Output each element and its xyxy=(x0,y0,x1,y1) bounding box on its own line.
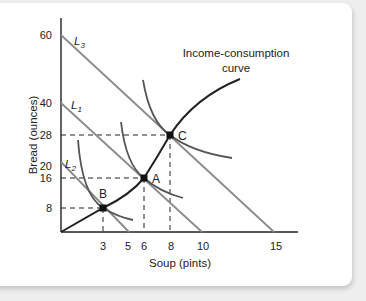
svg-text:16: 16 xyxy=(40,172,52,184)
point-c xyxy=(167,132,174,139)
x-axis-label: Soup (pints) xyxy=(149,257,211,269)
indifference-curve-c xyxy=(143,80,232,158)
svg-text:40: 40 xyxy=(40,97,52,109)
svg-text:6: 6 xyxy=(141,240,147,252)
x-tick-labels: 3 5 6 8 10 15 xyxy=(100,240,282,252)
chart: B A C L3 L1 L2 Income-consumption curve … xyxy=(0,0,366,301)
y-tick-labels: 60 40 28 20 16 8 xyxy=(40,29,52,214)
icc-label-line1: Income-consumption xyxy=(183,47,290,59)
svg-text:8: 8 xyxy=(46,202,52,214)
point-label-a: A xyxy=(152,172,160,186)
svg-text:15: 15 xyxy=(270,240,282,252)
svg-text:5: 5 xyxy=(125,240,131,252)
svg-text:3: 3 xyxy=(100,240,106,252)
svg-text:8: 8 xyxy=(168,240,174,252)
point-b xyxy=(100,205,107,212)
svg-text:28: 28 xyxy=(40,129,52,141)
line-label-l1: L1 xyxy=(71,99,82,114)
icc-label-line2: curve xyxy=(222,62,250,74)
svg-text:20: 20 xyxy=(40,160,52,172)
y-axis-label: Bread (ounces) xyxy=(27,96,39,175)
point-label-b: B xyxy=(99,187,107,201)
point-a xyxy=(141,175,148,182)
svg-text:60: 60 xyxy=(40,29,52,41)
svg-text:10: 10 xyxy=(197,240,209,252)
point-label-c: C xyxy=(178,129,187,143)
income-consumption-curve xyxy=(61,79,240,232)
line-label-l2: L2 xyxy=(65,158,76,173)
